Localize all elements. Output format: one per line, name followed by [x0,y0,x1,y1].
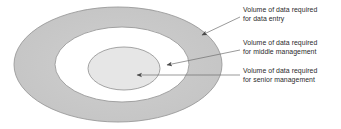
callout-middle-management-line2: for middle management [243,47,317,56]
callout-data-entry-line1: Volume of data required [243,5,317,14]
callout-middle-management-line1: Volume of data required [243,38,317,47]
callout-label-data-entry: Volume of data required for data entry [243,5,317,23]
diagram-canvas: Volume of data required for data entry V… [0,0,341,129]
callout-label-senior-management: Volume of data required for senior manag… [243,66,317,84]
inner-ellipse [88,47,160,90]
callout-senior-management-line1: Volume of data required [243,66,317,75]
callout-label-middle-management: Volume of data required for middle manag… [243,38,317,56]
callout-data-entry-line2: for data entry [243,14,317,23]
callout-senior-management-line2: for senior management [243,75,317,84]
leader-line-data-entry [202,17,240,35]
